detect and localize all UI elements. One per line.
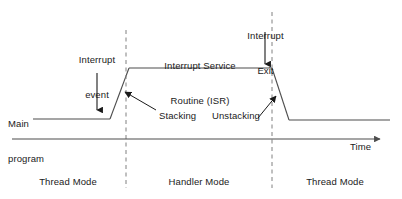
mode-name: Handler Mode [149, 176, 249, 188]
unstacking-pointer-icon [258, 96, 276, 118]
interrupt-exit-label-line2: Exit [232, 65, 299, 77]
stacking-label: Stacking [159, 110, 196, 122]
interrupt-event-label-line1: Interrupt [63, 54, 131, 66]
main-program-label-line1: Main [8, 118, 70, 130]
mode-section-handler-mode: Handler Mode (Use MSP) [149, 153, 249, 199]
mode-section-thread-mode-1: Thread Mode (Use MSP) [18, 153, 118, 199]
time-axis-label: Time [350, 141, 371, 153]
mode-name: Thread Mode [18, 176, 118, 188]
interrupt-event-label: Interrupt event [63, 31, 131, 123]
mode-section-thread-mode-2: Thread Mode (Use MSP) [285, 153, 385, 199]
mode-name: Thread Mode [285, 176, 385, 188]
interrupt-timing-diagram: Interrupt event Interrupt Service Routin… [0, 0, 402, 199]
interrupt-exit-label-line1: Interrupt [232, 30, 299, 42]
unstacking-label: Unstacking [212, 110, 260, 122]
interrupt-exit-label: Interrupt Exit [232, 7, 299, 99]
interrupt-event-label-line2: event [63, 89, 131, 101]
